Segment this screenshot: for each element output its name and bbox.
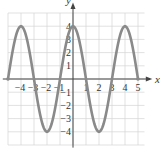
- y-tick-label: −4: [60, 126, 71, 137]
- x-axis-label: x: [154, 73, 160, 85]
- y-tick-label: 2: [66, 47, 71, 58]
- x-tick-label: 4: [123, 82, 128, 93]
- y-tick-label: 1: [66, 60, 71, 71]
- endpoint-right: [136, 77, 140, 81]
- y-axis-arrow-icon: [71, 2, 76, 9]
- x-tick-label: 2: [97, 82, 102, 93]
- function-graph: xy−4−3−2−1123454321−1−2−3−4: [0, 0, 160, 154]
- endpoint-left: [6, 77, 10, 81]
- y-tick-label: −1: [60, 87, 71, 98]
- x-tick-label: 5: [136, 82, 141, 93]
- x-tick-label: −4: [15, 82, 26, 93]
- y-tick-label: −3: [60, 113, 71, 124]
- x-tick-label: −2: [41, 82, 52, 93]
- y-axis-label: y: [65, 0, 71, 6]
- x-axis-arrow-icon: [146, 77, 153, 82]
- y-tick-label: −2: [60, 100, 71, 111]
